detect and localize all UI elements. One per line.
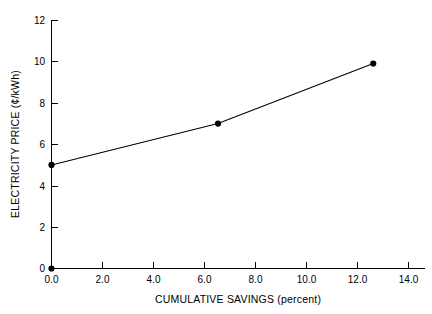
line-chart: 12 10 8 6 4 2 0 0.0 — [0, 0, 432, 314]
x-tick-label: 8.0 — [249, 274, 263, 285]
y-axis-tick-labels: 12 10 8 6 4 2 0 — [34, 15, 46, 274]
y-tick-label: 0 — [39, 263, 45, 274]
series-line — [52, 63, 374, 164]
origin-marker — [48, 265, 54, 271]
plot-area: 12 10 8 6 4 2 0 0.0 — [9, 15, 425, 305]
data-point-marker — [370, 60, 376, 66]
x-tick-label: 4.0 — [147, 274, 161, 285]
y-tick-label: 12 — [34, 15, 46, 26]
x-tick-label: 2.0 — [96, 274, 110, 285]
y-axis-ticks — [52, 21, 59, 269]
x-tick-label: 6.0 — [198, 274, 212, 285]
x-axis-ticks — [52, 262, 409, 269]
data-point-marker — [215, 120, 221, 126]
data-series-electricity-price — [48, 60, 376, 271]
x-tick-label: 12.0 — [348, 274, 368, 285]
x-tick-label: 14.0 — [399, 274, 419, 285]
x-tick-label: 0.0 — [45, 274, 59, 285]
x-axis-title: CUMULATIVE SAVINGS (percent) — [155, 293, 321, 305]
y-tick-label: 8 — [39, 98, 45, 109]
chart-canvas: 12 10 8 6 4 2 0 0.0 — [0, 0, 432, 314]
y-tick-label: 4 — [39, 181, 45, 192]
y-axis-title: ELECTRICITY PRICE (¢/kWh) — [9, 70, 21, 218]
y-tick-label: 2 — [39, 222, 45, 233]
y-tick-label: 6 — [39, 139, 45, 150]
data-point-marker — [48, 162, 54, 168]
x-tick-label: 10.0 — [297, 274, 317, 285]
y-tick-label: 10 — [34, 56, 46, 67]
x-axis-tick-labels: 0.0 2.0 4.0 6.0 8.0 10.0 12.0 14.0 — [45, 274, 419, 285]
